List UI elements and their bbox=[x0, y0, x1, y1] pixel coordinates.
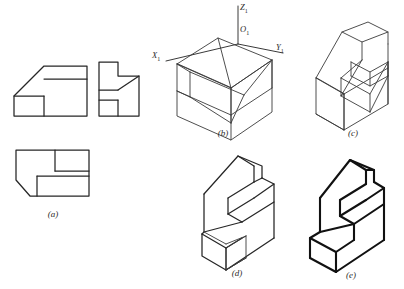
front-view bbox=[14, 66, 87, 116]
panel-b-axonometric-box: Z1 O1 X1 Y1 (b) bbox=[146, 0, 296, 150]
axis-label-y: Y1 bbox=[276, 42, 284, 54]
caption-c: (c) bbox=[338, 128, 368, 138]
caption-d: (d) bbox=[222, 268, 252, 278]
coordinate-axes bbox=[166, 6, 283, 61]
panel-c-isometric-construction: (c) bbox=[296, 18, 404, 148]
caption-b: (b) bbox=[208, 128, 238, 138]
axis-label-o: O1 bbox=[240, 24, 249, 36]
solid-outline-e bbox=[310, 160, 384, 272]
panel-e-isometric-final: (e) bbox=[288, 144, 404, 289]
top-view bbox=[16, 150, 89, 196]
construction-lines-top bbox=[177, 38, 272, 88]
side-view bbox=[99, 62, 139, 116]
caption-e: (e) bbox=[336, 270, 366, 280]
panel-a-orthographic-views: (a) bbox=[0, 0, 160, 230]
axis-label-x: X1 bbox=[152, 50, 160, 62]
caption-a: (a) bbox=[38, 209, 68, 219]
bounding-box bbox=[177, 38, 272, 140]
panel-d-isometric-trimmed: (d) bbox=[178, 140, 296, 288]
axis-label-z: Z1 bbox=[240, 2, 248, 14]
solid-outline-d bbox=[202, 156, 274, 270]
solid-outline-c bbox=[316, 22, 388, 130]
